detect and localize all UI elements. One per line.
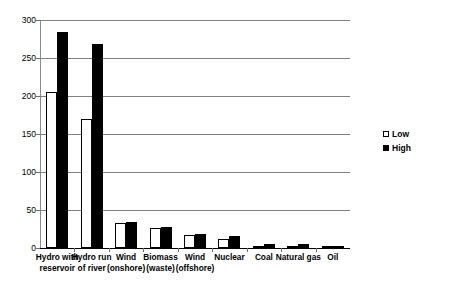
x-axis-label: Oil [310,252,356,263]
y-tick-mark [36,134,40,135]
gridline-0 [40,248,350,249]
x-axis-label-line1: Wind [185,252,205,262]
x-tick-mark [74,248,75,252]
x-tick-mark [212,248,213,252]
x-tick-mark [178,248,179,252]
bar-group [150,20,172,248]
plot-area [40,20,350,248]
x-axis-label-line1: Wind [116,252,136,262]
x-tick-mark [247,248,248,252]
bar-high [264,244,275,248]
bar-low [184,235,195,248]
x-tick-mark [143,248,144,252]
bar-low [46,92,57,248]
y-tick-mark [36,210,40,211]
bar-low [322,246,333,248]
x-axis-labels: Hydro withreservoirHydro runof riverWind… [0,252,452,286]
x-axis-label-line1: Oil [327,252,338,262]
y-tick-label: 50 [6,206,36,215]
bar-low [150,228,161,248]
y-tick-label: 150 [6,130,36,139]
bar-high [298,244,309,248]
legend-label: High [392,144,411,153]
legend-swatch-low [383,131,389,137]
bar-high [57,32,68,248]
y-tick-label: 300 [6,16,36,25]
legend-item: Low [383,127,447,141]
bar-group [287,20,309,248]
y-tick-label: 100 [6,168,36,177]
bar-low [81,119,92,248]
bar-group [253,20,275,248]
bar-high [126,222,137,248]
x-tick-mark [109,248,110,252]
y-tick-label: 200 [6,92,36,101]
bar-group [322,20,344,248]
y-tick-mark [36,58,40,59]
bar-chart: 050100150200250300 Hydro withreservoirHy… [0,0,452,289]
legend-swatch-high [383,145,389,151]
y-tick-mark [36,20,40,21]
bar-low [115,223,126,248]
bar-group [115,20,137,248]
bar-group [184,20,206,248]
x-tick-mark [281,248,282,252]
bar-low [253,246,264,248]
bar-group [218,20,240,248]
bar-high [229,236,240,248]
y-tick-mark [36,172,40,173]
y-axis-labels: 050100150200250300 [0,0,36,289]
legend-item: High [383,141,447,155]
y-tick-mark [36,248,40,249]
x-axis-label-line1: Coal [255,252,273,262]
chart-legend: LowHigh [383,127,447,155]
bar-high [92,44,103,248]
x-axis-label-line2: (offshore) [172,263,218,274]
bar-low [287,246,298,248]
x-tick-mark [316,248,317,252]
bar-high [195,234,206,248]
bar-low [218,239,229,248]
bar-high [161,227,172,248]
bar-group [46,20,68,248]
bar-group [81,20,103,248]
bar-high [333,246,344,248]
y-tick-mark [36,96,40,97]
legend-label: Low [392,130,409,139]
y-tick-label: 250 [6,54,36,63]
